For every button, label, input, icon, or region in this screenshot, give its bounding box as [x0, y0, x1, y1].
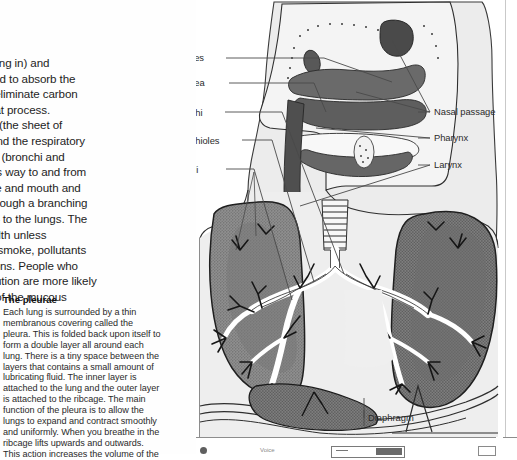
- footer-thumb-line: [336, 450, 348, 451]
- pleurae-line: and uniformly. When you breathe in the: [3, 427, 189, 438]
- footer-rule-right: [503, 437, 517, 438]
- footer-caption: Voice: [260, 447, 275, 453]
- pleurae-line: attached to the lung and the outer layer: [3, 383, 189, 394]
- label-pharynx: Pharynx: [434, 132, 468, 143]
- footer-thumbnail: [331, 446, 405, 458]
- body-line: ipe) and through a branching: [0, 195, 192, 211]
- body-line: gy, and to eliminate carbon: [0, 86, 192, 102]
- footer-thumbnail-right: [478, 446, 496, 456]
- respiratory-system-diagram: Sinuses Trachea Bronchi Bronchioles Alve…: [196, 0, 513, 437]
- body-line: ducts of that process.: [0, 102, 192, 118]
- body-line: gh the nose and mouth and: [0, 180, 192, 196]
- body-line: s good health unless: [0, 227, 192, 243]
- pleurae-line: lungs to expand and contract smoothly: [3, 416, 189, 427]
- pleurae-line: ribcage lifts upwards and outwards.: [3, 438, 189, 449]
- pleurae-line: form a double layer all around each: [3, 340, 189, 351]
- nasal-floor: [294, 98, 427, 130]
- label-nasal-passage: Nasal passage: [434, 106, 495, 117]
- label-trachea: Trachea: [196, 77, 205, 88]
- pleurae-line: function of the pleura is to allow the: [3, 405, 189, 416]
- pleurae-sidebar-note: The pleurae Each lung is surrounded by a…: [3, 294, 189, 460]
- pleurae-line: pleura. This is folded back upon itself …: [3, 329, 189, 340]
- pleurae-heading: The pleurae: [3, 294, 189, 305]
- body-line: ing (breathing in) and: [0, 55, 192, 71]
- page-margin-rule: [505, 0, 506, 437]
- pleurae-line: This action increases the volume of the: [3, 449, 189, 460]
- pleurae-line: lung. There is a tiny space between the: [3, 351, 189, 362]
- body-line: onchioles – to the lungs. The: [0, 211, 192, 227]
- body-line: odomen) and the respiratory: [0, 133, 192, 149]
- body-line: r by infections. People who: [0, 258, 192, 274]
- label-alveoli: Alveoli: [196, 164, 198, 175]
- label-bronchi: Bronchi: [196, 107, 202, 118]
- body-line: ws the blood to absorb the: [0, 71, 192, 87]
- body-line: diaphragm (the sheet of: [0, 117, 192, 133]
- footer-strip: Voice: [196, 437, 513, 454]
- body-line: asses on its way to and from: [0, 164, 192, 180]
- body-line: to tobacco smoke, pollutants: [0, 242, 192, 258]
- pleurae-line: layers that contains a small amount of: [3, 362, 189, 373]
- label-sinuses: Sinuses: [196, 52, 204, 63]
- pleurae-line: lubricating fluid. The inner layer is: [3, 372, 189, 383]
- sinus-cavity: [380, 20, 413, 56]
- footer-thumb-block: [376, 448, 402, 455]
- footer-rule: [196, 437, 496, 438]
- pleurae-line: membranous covering called the: [3, 318, 189, 329]
- body-line: ere air pollution are more likely: [0, 273, 192, 289]
- pleurae-line: Each lung is surrounded by a thin: [3, 307, 189, 318]
- body-text-block: ing (breathing in) and ws the blood to a…: [0, 55, 192, 305]
- anatomy-illustration: [196, 0, 513, 437]
- label-larynx: Larynx: [434, 159, 462, 170]
- pleurae-line: is attached to the ribcage. The main: [3, 394, 189, 405]
- body-line: d the tubes (bronchi and: [0, 149, 192, 165]
- label-bronchioles: Bronchioles: [196, 135, 219, 146]
- bullet-icon: [200, 447, 207, 454]
- soft-palate: [354, 136, 374, 168]
- label-diaphragm: Diaphragm: [368, 412, 414, 423]
